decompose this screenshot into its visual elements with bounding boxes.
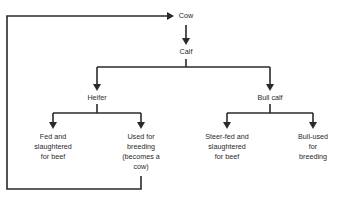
edge-heifer-to-beef bbox=[49, 113, 57, 129]
edge-calf-split bbox=[97, 59, 270, 67]
arrowhead-icon bbox=[309, 122, 317, 129]
edge-heifer-split bbox=[53, 104, 141, 113]
arrowhead-icon bbox=[223, 122, 231, 129]
node-bull-breeding: Bull-used for breeding bbox=[296, 132, 331, 162]
node-steer-beef: Steer-fed and slaughtered for beef bbox=[205, 132, 249, 162]
node-heifer-beef: Fed and slaughtered for beef bbox=[34, 132, 72, 162]
node-heifer: Heifer bbox=[87, 93, 106, 103]
arrowhead-icon bbox=[266, 84, 274, 91]
edge-bull-calf-to-steer bbox=[223, 113, 231, 129]
node-cow: Cow bbox=[179, 11, 193, 21]
arrowhead-icon bbox=[49, 122, 57, 129]
edge-calf-to-bull-calf bbox=[266, 67, 274, 91]
edge-calf-to-heifer bbox=[93, 67, 101, 91]
arrowhead-icon bbox=[93, 84, 101, 91]
edge-cow-to-calf bbox=[182, 25, 190, 45]
node-calf: Calf bbox=[180, 47, 193, 57]
edge-bull-calf-to-bull bbox=[309, 113, 317, 129]
edge-bull-calf-split bbox=[227, 104, 313, 113]
arrowhead-icon bbox=[137, 122, 145, 129]
arrowhead-icon bbox=[182, 38, 190, 45]
cattle-lifecycle-diagram: Cow Calf Heifer Bull calf Fed and slaugh… bbox=[0, 0, 348, 199]
node-bull-calf: Bull calf bbox=[257, 93, 282, 103]
connector-layer bbox=[0, 0, 348, 199]
edge-heifer-to-breeding bbox=[137, 113, 145, 129]
node-heifer-breeding: Used for breeding (becomes a cow) bbox=[122, 132, 160, 172]
arrowhead-icon bbox=[167, 12, 174, 20]
